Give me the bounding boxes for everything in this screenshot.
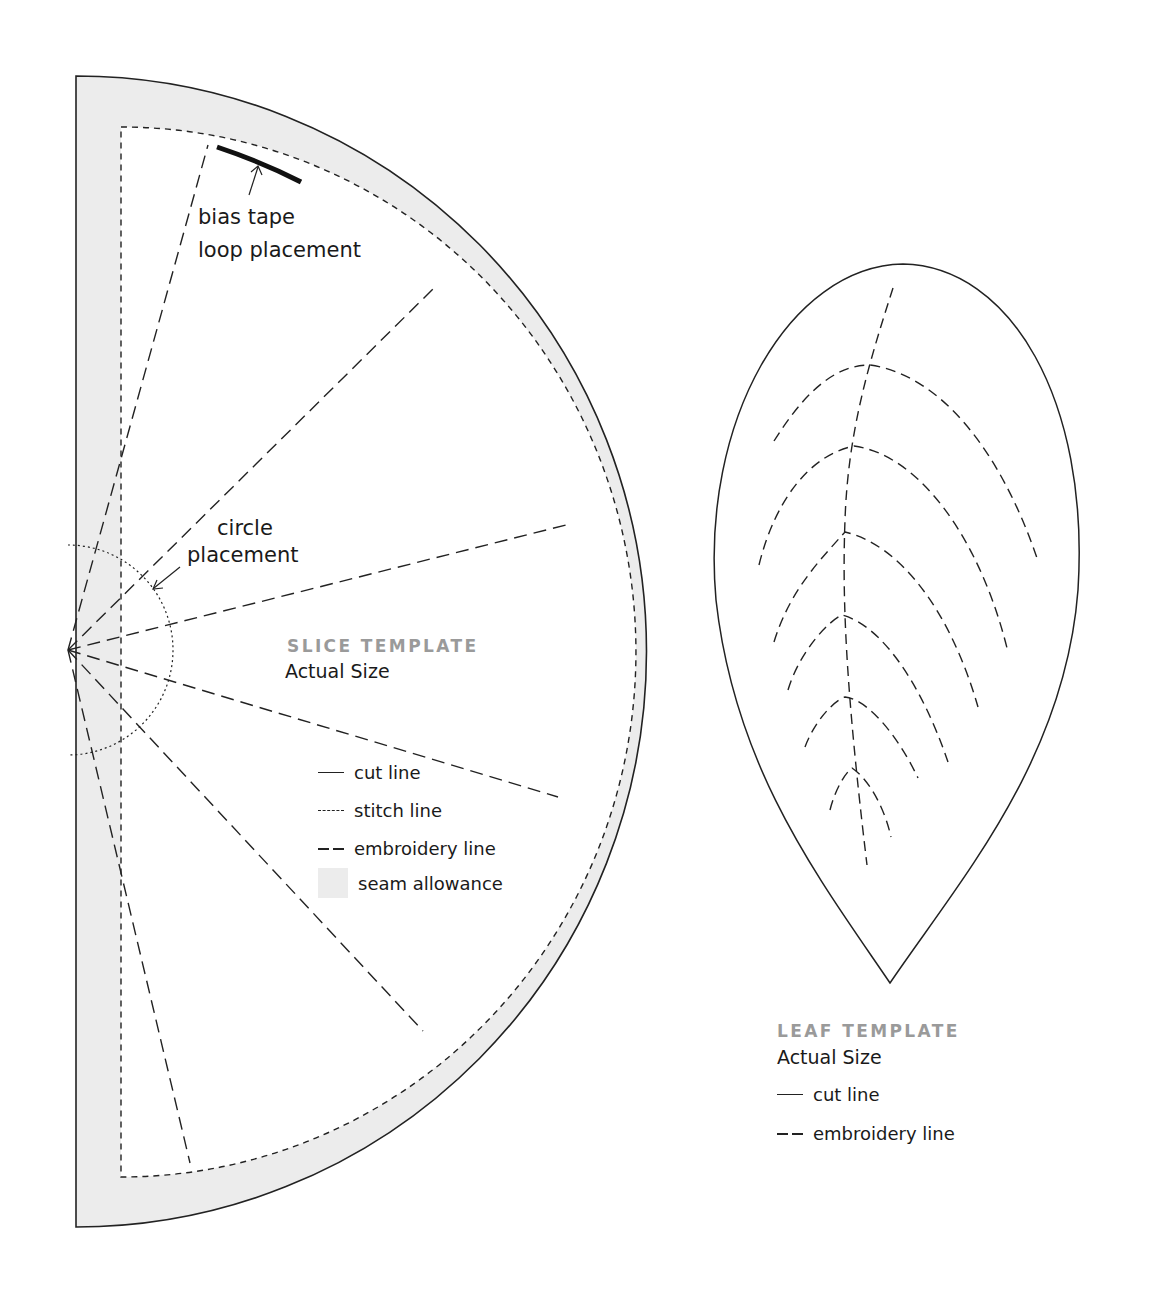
slice-legend-cut-line: cut line <box>318 762 421 783</box>
leaf-template-title: LEAF TEMPLATE <box>777 1021 960 1041</box>
legend-label: embroidery line <box>813 1123 955 1144</box>
long-dash-swatch-icon <box>318 848 344 850</box>
long-dash-swatch-icon <box>777 1133 803 1135</box>
slice-legend-embroidery-line: embroidery line <box>318 838 496 859</box>
legend-label: embroidery line <box>354 838 496 859</box>
solid-line-swatch-icon <box>777 1094 803 1095</box>
bias-tape-label-line1: bias tape <box>198 205 295 230</box>
slice-legend-seam-allowance: seam allowance <box>318 868 503 898</box>
pattern-diagram <box>0 0 1153 1290</box>
legend-label: stitch line <box>354 800 442 821</box>
legend-label: seam allowance <box>358 873 503 894</box>
leaf-legend-cut-line: cut line <box>777 1084 880 1105</box>
leaf-cut-outline <box>714 264 1079 983</box>
leaf-legend-embroidery-line: embroidery line <box>777 1123 955 1144</box>
circle-placement-label-line1: circle <box>217 516 273 541</box>
solid-line-swatch-icon <box>318 772 344 773</box>
bias-tape-label-line2: loop placement <box>198 238 361 263</box>
gray-fill-swatch-icon <box>318 868 348 898</box>
legend-label: cut line <box>354 762 421 783</box>
slice-legend-stitch-line: stitch line <box>318 800 442 821</box>
slice-template-subtitle: Actual Size <box>285 660 390 682</box>
circle-placement-label-line2: placement <box>187 543 298 568</box>
leaf-template-subtitle: Actual Size <box>777 1046 882 1068</box>
leaf-template <box>714 264 1079 983</box>
legend-label: cut line <box>813 1084 880 1105</box>
short-dash-swatch-icon <box>318 810 344 811</box>
slice-template-title: SLICE TEMPLATE <box>287 636 478 656</box>
